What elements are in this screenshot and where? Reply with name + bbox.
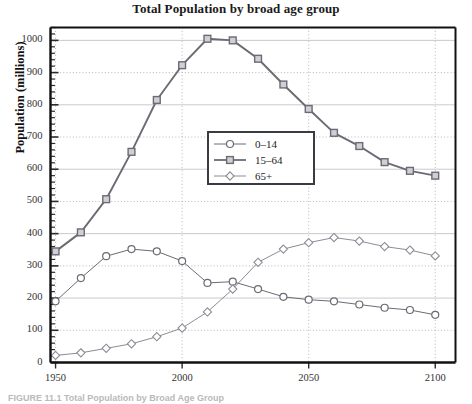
y-tick-label: 900 (3, 66, 43, 77)
legend-marker-circle-icon (213, 137, 247, 151)
x-tick-label: 2100 (415, 372, 455, 383)
data-series-layer (51, 35, 439, 359)
y-tick-label: 200 (3, 291, 43, 302)
x-tick-label: 2000 (162, 372, 202, 383)
legend-marker-diamond-icon (213, 169, 247, 183)
major-tick-marks (51, 40, 436, 368)
y-tick-label: 500 (3, 194, 43, 205)
y-tick-label: 700 (3, 130, 43, 141)
y-tick-label: 800 (3, 98, 43, 109)
y-tick-label: 100 (3, 323, 43, 334)
legend-label: 0–14 (247, 138, 277, 150)
chart-legend: 0–14 15–64 65+ (207, 131, 315, 185)
y-tick-label: 400 (3, 227, 43, 238)
gridlines (51, 28, 456, 363)
legend-item-15-64[interactable]: 15–64 (213, 152, 309, 168)
legend-label: 65+ (247, 170, 272, 182)
legend-item-0-14[interactable]: 0–14 (213, 136, 309, 152)
plot-frame (51, 28, 456, 363)
plot-canvas (0, 0, 472, 404)
y-tick-label: 0 (3, 356, 43, 367)
x-tick-label: 1950 (36, 372, 76, 383)
y-tick-label: 600 (3, 162, 43, 173)
x-tick-label: 2050 (289, 372, 329, 383)
legend-item-65-plus[interactable]: 65+ (213, 168, 309, 184)
y-tick-label: 1000 (3, 33, 43, 44)
legend-marker-square-icon (213, 153, 247, 167)
chart-figure: Total Population by broad age group Popu… (0, 0, 472, 404)
figure-caption: FIGURE 11.1 Total Population by Broad Ag… (8, 393, 468, 404)
y-tick-label: 300 (3, 259, 43, 270)
legend-label: 15–64 (247, 154, 283, 166)
